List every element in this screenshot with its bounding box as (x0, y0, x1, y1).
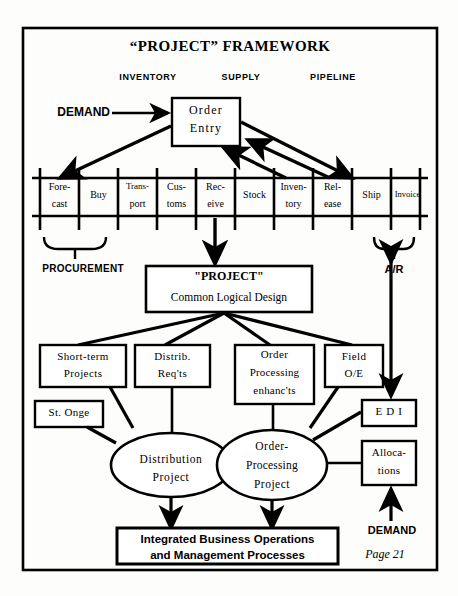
pipeline-cell-label: port (118, 198, 157, 209)
distribution-project-label-line2: Project (111, 471, 231, 484)
project-box-label-line1: "PROJECT" (146, 270, 312, 283)
pipeline-cell-label: ease (313, 198, 352, 209)
pipeline-cell-label: Rec- (196, 181, 235, 192)
distrib-reqts-label-line1: Distrib. (135, 350, 210, 362)
outcome-box-label-line2: and Management Processes (117, 549, 338, 562)
column-header-supply: SUPPLY (206, 72, 276, 82)
pipeline-cell-label: Stock (235, 189, 274, 200)
short-term-projects-label-line1: Short-term (40, 350, 126, 362)
outcome-box-label-line1: Integrated Business Operations (117, 533, 338, 546)
column-header-pipeline: PIPELINE (293, 72, 373, 82)
order-processing-project-label-line2: Processing (217, 459, 327, 472)
distrib-reqts-label-line2: Req'ts (135, 367, 210, 379)
pipeline-cell-label: Fore- (40, 181, 79, 192)
pipeline-cell-label: Ship (352, 189, 391, 200)
procurement-label: PROCUREMENT (28, 263, 138, 274)
allocations-label-line2: tions (362, 464, 416, 476)
pipeline-cell-label: Invoice (391, 190, 424, 200)
ar-label: A/R (369, 263, 419, 275)
field-oe-label-line1: Field (325, 350, 383, 362)
diagram-canvas: “PROJECT” FRAMEWORK INVENTORY SUPPLY PIP… (0, 0, 458, 596)
edi-to-ellipse-line (313, 412, 361, 440)
project-box-label-line2: Common Logical Design (146, 291, 312, 304)
field-oe-label-line2: O/E (325, 367, 383, 379)
order-processing-enhancts-label-line2: Processing (233, 366, 316, 378)
short-term-to-distribution-line (110, 387, 133, 428)
pipeline-cell-label: cast (40, 198, 79, 209)
pipeline-cell-label: eive (196, 198, 235, 209)
pipeline-cell-label: tory (274, 198, 313, 209)
st-onge-to-distribution-line (87, 427, 116, 443)
order-entry-label-line1: Order (172, 104, 240, 117)
page-title: “PROJECT” FRAMEWORK (23, 38, 437, 55)
project-fanout-lines (78, 313, 352, 345)
demand-label-bottom: DEMAND (350, 524, 434, 536)
edi-label: E D I (362, 405, 416, 417)
column-header-inventory: INVENTORY (103, 72, 193, 82)
order-processing-enhancts-label-line1: Order (235, 348, 314, 360)
st-onge-label: St. Onge (35, 406, 103, 418)
pipeline-cell-label: Rel- (313, 181, 352, 192)
allocations-label-line1: Alloca- (362, 446, 416, 458)
pipeline-cell-label: Buy (79, 189, 118, 200)
pipeline-cell-label: Inven- (274, 181, 313, 192)
order-entry-left-diagonal (60, 126, 171, 178)
pipeline-cell-label: Cus- (157, 181, 196, 192)
pipeline-cell-label: toms (157, 198, 196, 209)
pipeline-cell-label: Trans- (118, 181, 157, 191)
procurement-brace (44, 237, 106, 249)
short-term-projects-label-line2: Projects (40, 367, 126, 379)
distribution-project-label-line1: Distribution (111, 453, 231, 466)
order-processing-project-label-line1: Order- (217, 440, 327, 453)
demand-label-top: DEMAND (40, 106, 110, 119)
ar-brace (374, 237, 414, 249)
order-processing-enhancts-label-line3: enhanc'ts (235, 384, 314, 396)
order-entry-label-line2: Entry (172, 122, 240, 135)
page-number: Page 21 (340, 548, 430, 561)
order-processing-project-label-line3: Project (217, 478, 327, 491)
order-entry-right-diagonal (241, 122, 352, 178)
